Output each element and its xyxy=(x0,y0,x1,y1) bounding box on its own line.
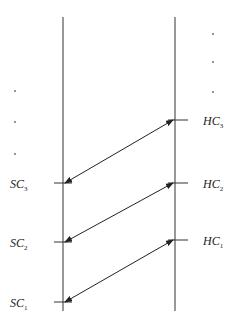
sc-hc-diagram: HC3 HC2 HC1 SC3 SC2 SC1 xyxy=(0,0,240,331)
dot xyxy=(14,90,16,92)
label-sc3: SC3 xyxy=(10,177,28,193)
left-continuation-dots xyxy=(14,90,16,155)
arrow-sc2-hc2 xyxy=(65,183,173,242)
arrow-sc3-hc3 xyxy=(65,120,173,183)
label-hc1: HC1 xyxy=(202,234,224,250)
dot xyxy=(14,121,16,123)
dot xyxy=(14,153,16,155)
label-hc3: HC3 xyxy=(202,114,224,130)
arrow-sc1-hc1 xyxy=(65,240,173,302)
dot xyxy=(212,91,214,93)
dot xyxy=(212,61,214,63)
right-continuation-dots xyxy=(212,33,214,93)
label-sc1: SC1 xyxy=(10,296,28,312)
label-hc2: HC2 xyxy=(202,177,224,193)
label-sc2: SC2 xyxy=(10,236,28,252)
dot xyxy=(212,33,214,35)
